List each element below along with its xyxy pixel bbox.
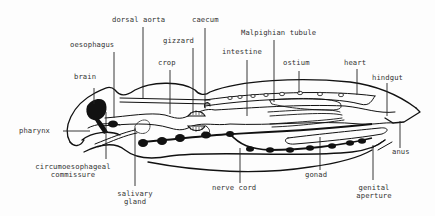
label-malpighian-tubule: Malpighian tubule (241, 29, 316, 37)
dorsal-aorta-vessel (120, 98, 210, 104)
label-caecum: caecum (192, 16, 219, 24)
label-brain: brain (74, 73, 96, 81)
body-outline-ventral (84, 140, 385, 158)
insect-anatomy-diagram: dorsal aorta caecum oesophagus gizzard M… (0, 0, 435, 216)
label-genital-aperture: genital aperture (351, 184, 397, 200)
label-intestine: intestine (222, 48, 262, 56)
label-pharynx: pharynx (19, 127, 50, 135)
brain-mass (86, 99, 118, 134)
label-nerve-cord: nerve cord (212, 184, 256, 192)
label-circumoesophageal-commissure: circumoesophageal commissure (27, 163, 119, 179)
label-gizzard: gizzard (163, 37, 194, 45)
label-anus: anus (392, 148, 410, 156)
label-heart: heart (344, 59, 366, 67)
label-circumoesophageal-line2: commissure (27, 171, 119, 179)
label-ostium: ostium (283, 59, 310, 67)
label-gonad: gonad (305, 171, 327, 179)
label-crop: crop (158, 59, 176, 67)
salivary-gland (135, 120, 150, 133)
label-dorsal-aorta: dorsal aorta (112, 16, 165, 24)
label-genital-line2: aperture (351, 192, 397, 200)
genital-duct (372, 140, 392, 150)
label-hindgut: hindgut (372, 74, 403, 82)
rear-outline (385, 108, 420, 123)
label-salivary-line2: gland (110, 198, 160, 206)
gizzard (188, 112, 205, 131)
label-salivary-gland: salivary gland (110, 190, 160, 206)
label-oesophagus: oesophagus (70, 41, 114, 49)
gut-upper (105, 105, 395, 118)
